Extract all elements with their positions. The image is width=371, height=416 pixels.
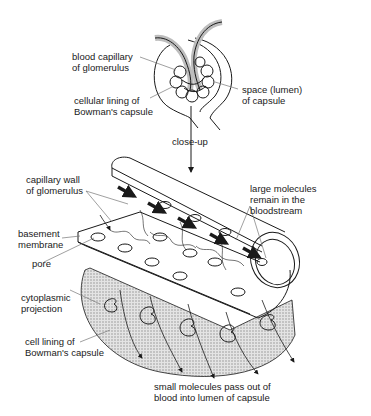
label-cell-lining: cell lining of Bowman's capsule [25,336,104,358]
label-cellular-lining: cellular lining of Bowman's capsule [74,95,153,117]
label-cytoplasmic-projection: cytoplasmic projection [21,292,71,314]
cell-lining-shading [81,268,295,376]
label-close-up: close-up [172,136,208,147]
label-large-molecules: large molecules remain in the bloodstrea… [250,183,317,216]
label-blood-capillary: blood capillary of glomerulus [72,51,133,73]
label-small-molecules: small molecules pass out of blood into l… [154,381,271,403]
label-pore: pore [32,258,51,269]
label-space-lumen: space (lumen) of capsule [242,84,302,106]
label-basement-membrane: basement membrane [18,228,63,250]
label-capillary-wall: capillary wall of glomerulus [26,174,83,196]
glomerulus-diagram: blood capillary of glomerulus cellular l… [0,0,371,416]
bowmans-capsule-overview [154,22,232,130]
